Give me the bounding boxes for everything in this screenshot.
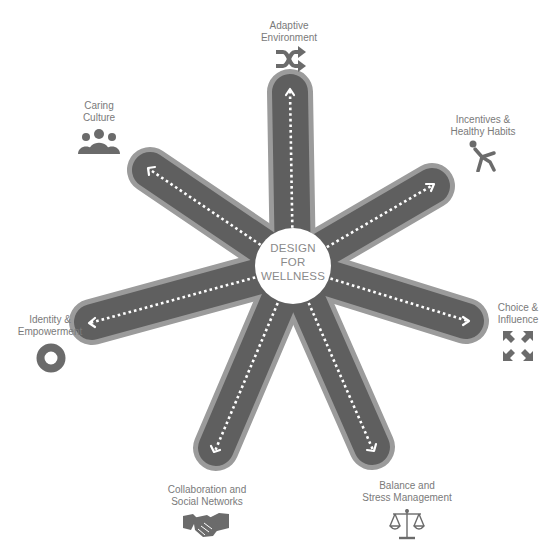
- label-line: Healthy Habits: [450, 126, 515, 138]
- person-running-icon: [468, 140, 498, 172]
- label-line: Choice &: [498, 302, 539, 314]
- node-label-identity: Identity & Empowerment: [18, 314, 82, 338]
- ring-icon: [36, 343, 66, 373]
- people-group-icon: [77, 128, 121, 154]
- scales-icon: [389, 508, 425, 540]
- label-line: Caring: [83, 100, 115, 112]
- label-line: Incentives &: [450, 114, 515, 126]
- node-label-adaptive-environment: Adaptive Environment: [261, 20, 317, 44]
- label-line: Identity &: [18, 314, 82, 326]
- center-title-line: WELLNESS: [261, 269, 325, 283]
- label-line: Adaptive: [261, 20, 317, 32]
- label-line: Social Networks: [168, 496, 246, 508]
- shuffle-icon: [274, 46, 306, 72]
- node-label-balance: Balance and Stress Management: [362, 480, 452, 504]
- label-line: Empowerment: [18, 326, 82, 338]
- center-title-line: DESIGN: [261, 241, 325, 255]
- node-label-choice: Choice & Influence: [498, 302, 539, 326]
- node-label-caring-culture: Caring Culture: [83, 100, 115, 124]
- label-line: Balance and: [362, 480, 452, 492]
- expand-arrows-icon: [502, 330, 534, 362]
- node-label-incentives: Incentives & Healthy Habits: [450, 114, 515, 138]
- label-line: Stress Management: [362, 492, 452, 504]
- node-label-collaboration: Collaboration and Social Networks: [168, 484, 246, 508]
- label-line: Environment: [261, 32, 317, 44]
- label-line: Culture: [83, 112, 115, 124]
- handshake-icon: [183, 512, 229, 538]
- label-line: Influence: [498, 314, 539, 326]
- center-title-line: FOR: [261, 255, 325, 269]
- center-title: DESIGN FOR WELLNESS: [261, 241, 325, 283]
- label-line: Collaboration and: [168, 484, 246, 496]
